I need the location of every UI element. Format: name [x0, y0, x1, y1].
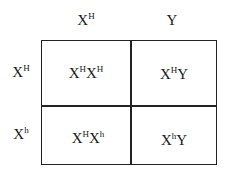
- allele-base: X: [77, 12, 88, 28]
- allele-base: X: [12, 64, 23, 80]
- cell-xhy: XHY: [160, 67, 188, 82]
- cell-xhxh-het: XHXh: [72, 131, 105, 146]
- cell-xhy-recessive: XhY: [161, 133, 187, 148]
- genotype-part: X: [72, 130, 83, 146]
- cell-xhxh: XHXH: [69, 66, 104, 81]
- genotype-part: X: [89, 130, 100, 146]
- grid-divider-horizontal: [42, 105, 216, 107]
- column-header-y: Y: [167, 13, 178, 28]
- genotype-part: X: [69, 65, 80, 81]
- genotype-sup: H: [80, 64, 87, 74]
- allele-superscript: H: [23, 63, 30, 73]
- genotype-part: X: [161, 132, 172, 148]
- column-header-xh: XH: [77, 13, 94, 28]
- genotype-sup: h: [172, 131, 177, 141]
- genotype-part: Y: [176, 132, 187, 148]
- allele-base: X: [13, 126, 24, 142]
- genotype-part: X: [160, 66, 171, 82]
- genotype-sup: H: [97, 64, 104, 74]
- genotype-sup: h: [100, 129, 105, 139]
- allele-superscript: h: [24, 125, 29, 135]
- allele-base: Y: [167, 12, 178, 28]
- genotype-part: Y: [177, 66, 188, 82]
- allele-superscript: H: [88, 11, 95, 21]
- genotype-part: X: [86, 65, 97, 81]
- row-header-xh-recessive: Xh: [13, 127, 28, 142]
- row-header-xh-dominant: XH: [12, 65, 29, 80]
- grid-divider-vertical: [130, 41, 132, 164]
- genotype-sup: H: [83, 129, 90, 139]
- punnett-grid: [41, 40, 217, 165]
- genotype-sup: H: [171, 65, 178, 75]
